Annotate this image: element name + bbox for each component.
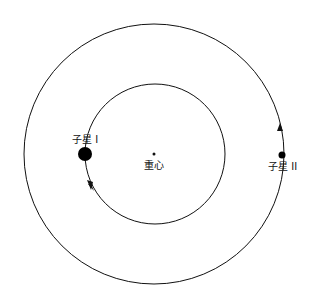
star-1-label: 子星 I bbox=[72, 134, 98, 146]
barycenter-dot bbox=[153, 153, 156, 156]
star-2 bbox=[279, 152, 286, 159]
barycenter-label: 重心 bbox=[144, 160, 164, 172]
star-2-label: 子星 II bbox=[268, 161, 297, 173]
orbit-diagram bbox=[0, 0, 319, 300]
arrow-up-icon bbox=[277, 123, 283, 131]
star-1 bbox=[78, 147, 92, 161]
